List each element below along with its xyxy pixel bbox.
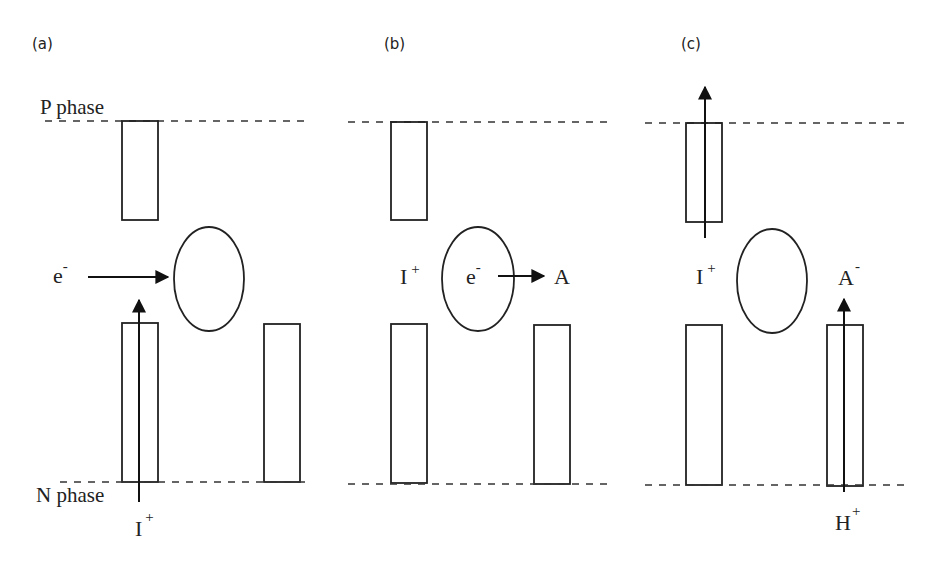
electron-label-a: e- — [53, 258, 68, 288]
membrane-transport-diagram: (a) P phase N phase e- I+ (b) I+ e- A (c… — [0, 0, 939, 562]
panel-label-a: (a) — [32, 35, 53, 53]
panel-a: (a) P phase N phase e- I+ — [32, 35, 305, 541]
acceptor-anion-label-c: A- — [838, 258, 860, 290]
p-phase-label: P phase — [40, 95, 104, 119]
panel-label-b: (b) — [384, 35, 405, 53]
channel-bottom-right-a — [264, 324, 300, 482]
drop-a — [174, 227, 244, 331]
channel-bottom-left-b — [391, 324, 427, 483]
acceptor-label-b: A — [554, 264, 570, 289]
channel-bottom-left-c — [686, 325, 722, 485]
channel-top-left-b — [391, 122, 427, 220]
ion-label-c: I+ — [696, 260, 716, 289]
drop-c — [737, 229, 807, 333]
panel-c: (c) I+ A- H+ — [645, 35, 905, 535]
electron-label-b: e- — [466, 259, 481, 289]
channel-top-left-a — [122, 121, 158, 220]
channel-bottom-right-b — [534, 325, 570, 484]
ion-label-b: I+ — [400, 261, 420, 289]
n-phase-label: N phase — [36, 483, 104, 507]
panel-label-c: (c) — [681, 35, 701, 53]
panel-b: (b) I+ e- A — [348, 35, 612, 484]
ion-label-a: I+ — [135, 509, 154, 541]
drop-b — [442, 227, 514, 331]
proton-label-c: H+ — [835, 503, 860, 535]
